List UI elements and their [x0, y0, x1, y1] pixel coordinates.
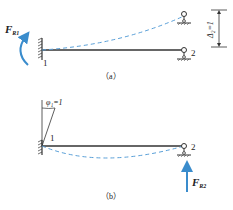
reaction-moment-arrow [20, 36, 28, 65]
fixed-support-icon [38, 38, 42, 60]
deflection-curve-b [42, 146, 184, 158]
displacement-label: Δ₂=1 [206, 21, 215, 39]
reaction-label-a: FR1 [4, 23, 19, 36]
fixed-support-icon [38, 140, 42, 155]
diagram-canvas: FR1 1 2 Δ₂=1 （a） φ₁=1 1 2 FR2 （b） [0, 0, 233, 210]
deflection-curve-a [42, 16, 184, 50]
reaction-label-b: FR2 [191, 176, 206, 189]
panel-a [20, 10, 227, 65]
node-2-label-a: 2 [191, 48, 196, 58]
rotation-angle-arc [42, 108, 55, 109]
caption-a: （a） [101, 72, 121, 81]
node-1-label-a: 1 [43, 58, 48, 68]
panel-b [38, 100, 191, 192]
node-2-label-b: 2 [191, 142, 196, 152]
caption-b: （b） [101, 192, 121, 201]
rotation-label: φ₁=1 [46, 98, 63, 107]
node-1-label-b: 1 [50, 133, 55, 143]
